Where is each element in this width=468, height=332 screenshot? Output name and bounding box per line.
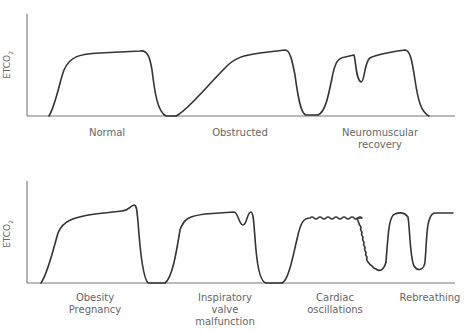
normal-waveform	[49, 51, 176, 116]
cardiac-oscillations-waveform	[282, 217, 386, 283]
neuromuscular-recovery-waveform	[318, 50, 429, 116]
inspiratory-valve-malfunction-waveform	[165, 212, 282, 283]
label-cardiac-oscillations: Cardiac oscillations	[300, 292, 370, 316]
label-rebreathing: Rebreathing	[395, 292, 465, 304]
capnography-waveforms	[0, 0, 468, 332]
label-inspiratory-valve-malfunction: Inspiratory valve malfunction	[185, 292, 265, 328]
label-obstructed: Obstructed	[200, 127, 280, 139]
top-y-axis-label: ETCO2	[2, 51, 14, 79]
rebreathing-waveform	[386, 213, 453, 269]
bottom-panel-axes	[27, 181, 455, 283]
top-panel-axes	[27, 14, 455, 116]
label-neuromuscular-recovery: Neuromuscular recovery	[340, 127, 420, 151]
label-normal: Normal	[72, 127, 142, 139]
bottom-y-axis-label: ETCO2	[2, 220, 14, 248]
obesity-pregnancy-waveform	[41, 205, 165, 283]
obstructed-waveform	[176, 50, 318, 116]
label-obesity-pregnancy: Obesity Pregnancy	[60, 292, 130, 316]
